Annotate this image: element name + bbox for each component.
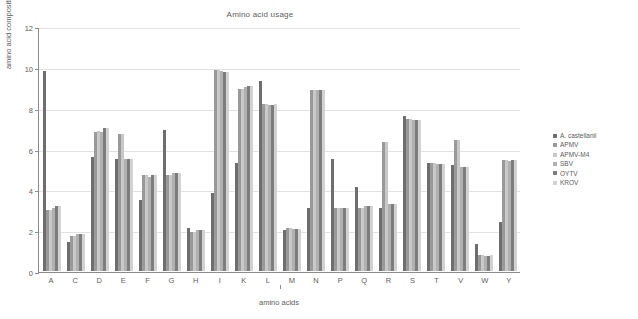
- x-axis-tick-label: E: [111, 276, 135, 285]
- bar-group: [352, 28, 376, 271]
- bar: [202, 230, 205, 271]
- chart-figure: Amino acid usage amino acid composition …: [0, 0, 638, 319]
- x-axis-tick-text: F: [145, 276, 150, 285]
- bar-group: [232, 28, 256, 271]
- x-axis-tick-text: N: [313, 276, 318, 285]
- legend-label: A. castellanii: [560, 131, 597, 140]
- bar: [106, 128, 109, 271]
- y-axis-tick: [35, 191, 39, 192]
- bar-groups: [40, 28, 520, 271]
- bar: [394, 204, 397, 271]
- bar-group: [304, 28, 328, 271]
- x-axis-tick-text: S: [410, 276, 415, 285]
- bar: [370, 206, 373, 271]
- bar-group: [112, 28, 136, 271]
- y-axis-title-wrapper: amino acid composition (%): [6, 0, 18, 245]
- x-axis-tick-text: R: [386, 276, 391, 285]
- bar-group: [496, 28, 520, 271]
- bar-group: [424, 28, 448, 271]
- legend-label: SBV: [560, 159, 573, 168]
- bar-group: [88, 28, 112, 271]
- chart-title: Amino acid usage: [0, 10, 520, 19]
- x-axis-tick-label: S: [400, 276, 424, 285]
- y-axis-tick: [35, 273, 39, 274]
- x-axis-tick-label: L: [256, 276, 280, 285]
- y-axis-tick: [35, 28, 39, 29]
- x-axis-tick-label: R: [376, 276, 400, 285]
- legend-label: OYTV: [560, 169, 578, 178]
- bar: [322, 90, 325, 271]
- bar: [418, 120, 421, 271]
- bar-group: [136, 28, 160, 271]
- y-axis-tick-label: 4: [29, 187, 33, 196]
- plot-area: 024681012: [38, 28, 520, 273]
- legend-item[interactable]: APMV-M4: [553, 150, 597, 159]
- bar: [58, 206, 61, 271]
- x-axis-tick-text: D: [97, 276, 102, 285]
- bar: [466, 167, 469, 271]
- x-axis-tick-text: Y: [506, 276, 511, 285]
- legend-label: APMV: [560, 140, 578, 149]
- legend-label: APMV-M4: [560, 150, 589, 159]
- x-axis-tick-label: D: [87, 276, 111, 285]
- x-axis-tick-label: C: [63, 276, 87, 285]
- legend-swatch-icon: [553, 162, 557, 166]
- x-axis-tick-label: W: [473, 276, 497, 285]
- x-axis-tick-text: I: [219, 276, 221, 285]
- bar: [442, 164, 445, 271]
- bar: [490, 255, 493, 271]
- y-axis-tick-label: 12: [25, 24, 33, 33]
- y-axis-tick-label: 2: [29, 228, 33, 237]
- bar: [514, 160, 517, 271]
- x-axis-tick-text: L: [266, 276, 270, 285]
- bar: [82, 234, 85, 271]
- x-axis-tick: [280, 285, 281, 289]
- legend-swatch-icon: [553, 134, 557, 138]
- bar-group: [160, 28, 184, 271]
- bar: [226, 72, 229, 271]
- bar-group: [184, 28, 208, 271]
- legend-item[interactable]: A. castellanii: [553, 131, 597, 140]
- x-axis-tick-text: E: [121, 276, 126, 285]
- bar: [178, 173, 181, 271]
- y-axis-tick: [35, 69, 39, 70]
- x-axis-tick-label: Q: [352, 276, 376, 285]
- x-axis-tick-text: Q: [361, 276, 367, 285]
- bar: [130, 159, 133, 271]
- legend-swatch-icon: [553, 143, 557, 147]
- bar-group: [376, 28, 400, 271]
- x-axis-tick-text: K: [241, 276, 246, 285]
- x-axis-tick-text: G: [169, 276, 175, 285]
- bar-group: [400, 28, 424, 271]
- bar: [250, 86, 253, 271]
- x-axis-tick-text: M: [289, 276, 295, 285]
- bar-group: [328, 28, 352, 271]
- legend-label: KROV: [560, 178, 578, 187]
- x-axis-tick-text: T: [434, 276, 439, 285]
- y-axis-tick: [35, 232, 39, 233]
- legend-item[interactable]: APMV: [553, 140, 597, 149]
- legend-item[interactable]: OYTV: [553, 169, 597, 178]
- x-axis-tick-label: Y: [497, 276, 521, 285]
- y-axis-title: amino acid composition (%): [4, 0, 13, 88]
- x-axis-tick-text: C: [72, 276, 77, 285]
- legend-swatch-icon: [553, 171, 557, 175]
- legend: A. castellaniiAPMVAPMV-M4SBVOYTVKROV: [553, 131, 597, 187]
- bar-group: [208, 28, 232, 271]
- x-axis-tick-text: V: [458, 276, 463, 285]
- x-axis-tick-label: M: [280, 276, 304, 285]
- y-axis-tick: [35, 151, 39, 152]
- legend-item[interactable]: SBV: [553, 159, 597, 168]
- bar: [154, 175, 157, 271]
- x-axis-tick-label: I: [208, 276, 232, 285]
- x-axis-tick-label: N: [304, 276, 328, 285]
- x-axis-tick-text: H: [193, 276, 198, 285]
- y-axis-tick: [35, 110, 39, 111]
- y-axis-tick-label: 0: [29, 269, 33, 278]
- x-axis-tick-label: V: [449, 276, 473, 285]
- bar: [346, 208, 349, 271]
- legend-item[interactable]: KROV: [553, 178, 597, 187]
- x-axis-tick-label: K: [232, 276, 256, 285]
- x-axis-tick-label: P: [328, 276, 352, 285]
- x-axis-title: amino acids: [38, 298, 520, 307]
